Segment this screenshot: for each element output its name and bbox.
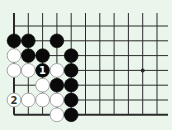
- white-stone-icon: [7, 64, 21, 78]
- white-stone: [7, 49, 21, 63]
- black-stone: [64, 49, 78, 63]
- white-stone: [50, 108, 64, 122]
- black-stone: 1: [36, 64, 50, 78]
- white-stone: [21, 93, 35, 107]
- white-stone: [7, 64, 21, 78]
- black-stone-icon: [64, 78, 78, 92]
- black-stone-icon: [21, 34, 35, 48]
- white-stone: [36, 93, 50, 107]
- white-stone-icon: [21, 64, 35, 78]
- white-stone: [21, 64, 35, 78]
- black-stone: [36, 49, 50, 63]
- white-stone-icon: [21, 93, 35, 107]
- white-stone-icon: [36, 78, 50, 92]
- black-stone: [64, 64, 78, 78]
- move-number-label: 2: [11, 95, 18, 106]
- black-stone: [21, 34, 35, 48]
- white-stone-icon: [50, 108, 64, 122]
- move-number-label: 1: [39, 65, 46, 76]
- white-stone-icon: [36, 93, 50, 107]
- go-board-diagram: 12: [0, 0, 172, 130]
- black-stone: [64, 93, 78, 107]
- black-stone: [64, 78, 78, 92]
- star-point-icon: [141, 68, 145, 72]
- black-stone-icon: [50, 78, 64, 92]
- white-stone: [36, 78, 50, 92]
- black-stone: [50, 78, 64, 92]
- black-stone: [50, 34, 64, 48]
- black-stone-icon: [36, 49, 50, 63]
- star-points: [141, 68, 145, 72]
- black-stone-icon: [64, 93, 78, 107]
- black-stone-icon: [64, 108, 78, 122]
- white-stone: [50, 93, 64, 107]
- black-stone: [7, 34, 21, 48]
- black-stone-icon: [64, 64, 78, 78]
- white-stone: [50, 64, 64, 78]
- black-stone-icon: [21, 49, 35, 63]
- white-stone-icon: [50, 64, 64, 78]
- white-stone-icon: [7, 49, 21, 63]
- black-stone: [64, 108, 78, 122]
- black-stone: [21, 49, 35, 63]
- black-stone-icon: [50, 34, 64, 48]
- black-stone-icon: [64, 49, 78, 63]
- white-stone: 2: [7, 93, 21, 107]
- white-stone-icon: [50, 93, 64, 107]
- black-stone-icon: [7, 34, 21, 48]
